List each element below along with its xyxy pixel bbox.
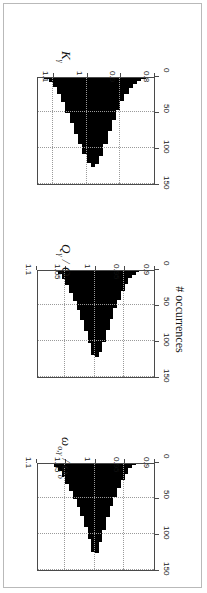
histogram-panel-k: 0.80.911.1050100150Kγ — [27, 67, 155, 185]
y-tick-label: 50 — [162, 104, 171, 113]
histogram-bar — [87, 78, 91, 163]
x-tick-label: 0.9 — [142, 264, 151, 275]
y-tick-mark — [155, 462, 159, 463]
y-tick-label: 100 — [162, 526, 171, 539]
histogram-bar — [128, 464, 132, 468]
y-tick-label: 0 — [162, 454, 171, 458]
y-tick-label: 50 — [162, 490, 171, 499]
histogram-bar — [99, 464, 103, 542]
histogram-bar — [132, 464, 136, 465]
x-tick-label: 1.1 — [41, 71, 50, 82]
y-tick-label: 100 — [162, 140, 171, 153]
plot-area-k — [37, 77, 155, 185]
histogram-bar — [80, 271, 84, 320]
x-tick-label: 0.95 — [113, 264, 122, 280]
y-tick-mark — [155, 377, 159, 378]
plot-area-q — [37, 270, 155, 378]
figure: # occurrences 0.90.9511.051.1050100150ωo… — [4, 4, 203, 589]
y-tick-label: 150 — [162, 369, 171, 382]
y-tick-mark — [155, 305, 159, 306]
histogram-bar — [106, 271, 110, 330]
gridline-horizontal — [38, 569, 154, 570]
x-tick-label: 0.9 — [142, 457, 151, 468]
x-tick-mark — [125, 266, 126, 270]
gridline-vertical — [124, 271, 125, 377]
histogram-panel-omega: 0.90.9511.051.1050100150ωo,γ / ωo — [27, 453, 155, 571]
gridline-vertical — [119, 78, 120, 184]
gridline-horizontal — [38, 147, 154, 148]
y-tick-mark — [155, 534, 159, 535]
gridline-horizontal — [38, 376, 154, 377]
histogram-bar — [125, 78, 129, 94]
x-tick-mark — [36, 266, 37, 270]
gridline-vertical — [94, 464, 95, 570]
x-axis-label-q: Qγ / Q — [56, 244, 74, 276]
gridline-vertical — [65, 464, 66, 570]
x-tick-label: 0.8 — [142, 71, 151, 82]
histogram-bar — [66, 78, 70, 113]
figure-rotated-container: # occurrences 0.90.9511.051.1050100150ωo… — [4, 4, 203, 589]
histogram-bar — [88, 464, 92, 539]
histogram-bar — [84, 464, 88, 527]
histogram-bar — [80, 464, 84, 516]
y-tick-label: 0 — [162, 68, 171, 72]
histogram-bar — [95, 464, 99, 553]
y-tick-mark — [155, 184, 159, 185]
y-tick-label: 50 — [162, 297, 171, 306]
y-tick-mark — [155, 269, 159, 270]
histogram-bar — [108, 78, 112, 131]
gridline-horizontal — [38, 533, 154, 534]
histogram-panel-q: 0.90.9511.051.1050100150Qγ / Q — [27, 260, 155, 378]
histogram-bar — [91, 78, 95, 167]
histogram-bar — [95, 78, 99, 164]
histogram-bar — [125, 464, 129, 474]
gridline-vertical — [65, 271, 66, 377]
histogram-bar — [129, 78, 133, 88]
plot-area-omega — [37, 463, 155, 571]
y-tick-mark — [155, 341, 159, 342]
x-tick-mark — [36, 459, 37, 463]
histogram-bar — [53, 78, 57, 87]
y-tick-mark — [155, 112, 159, 113]
histogram-bar — [61, 78, 65, 102]
x-axis-label-omega: ωo,γ / ωo — [56, 437, 74, 479]
histogram-bar — [70, 78, 74, 123]
y-tick-label: 150 — [162, 176, 171, 189]
histogram-bar — [57, 78, 61, 94]
histogram-bar — [137, 78, 141, 81]
gridline-vertical — [94, 271, 95, 377]
x-tick-label: 1.1 — [24, 457, 33, 468]
x-tick-mark — [95, 266, 96, 270]
shared-y-axis-label: # occurrences — [172, 220, 187, 420]
histogram-bar — [102, 271, 106, 342]
histogram-bar — [132, 271, 136, 275]
bars-k — [38, 78, 154, 184]
y-tick-label: 150 — [162, 562, 171, 575]
gridline-vertical — [124, 464, 125, 570]
bars-omega — [38, 464, 154, 570]
y-tick-label: 0 — [162, 261, 171, 265]
histogram-bar — [95, 271, 99, 357]
x-tick-mark — [87, 73, 88, 77]
x-tick-label: 1 — [83, 457, 92, 461]
y-tick-mark — [155, 148, 159, 149]
x-tick-mark — [125, 459, 126, 463]
histogram-bar — [99, 78, 103, 156]
histogram-bar — [125, 271, 129, 284]
y-tick-mark — [155, 76, 159, 77]
x-axis-label-k: Kγ — [56, 51, 74, 63]
histogram-bar — [106, 464, 110, 517]
histogram-bar — [128, 271, 132, 278]
histogram-bar — [88, 271, 92, 343]
gridline-horizontal — [38, 497, 154, 498]
gridline-horizontal — [38, 183, 154, 184]
y-tick-mark — [155, 570, 159, 571]
histogram-bar — [74, 78, 78, 134]
x-tick-label: 0.95 — [113, 457, 122, 473]
histogram-bar — [133, 78, 137, 84]
x-tick-label: 0.9 — [108, 71, 117, 82]
histogram-bar — [77, 464, 81, 507]
bars-q — [38, 271, 154, 377]
x-tick-mark — [120, 73, 121, 77]
x-tick-label: 1 — [75, 71, 84, 75]
